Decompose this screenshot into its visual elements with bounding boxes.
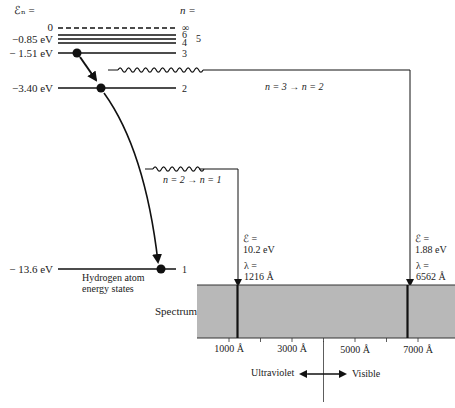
photon-wave-3-2 xyxy=(118,68,203,72)
photon-wave-2-1 xyxy=(153,167,204,171)
hydrogen-diagram: ℰₙ = n = 0 −0.85 eV − 1.51 eV −3.40 eV −… xyxy=(0,0,455,408)
energy-136: − 13.6 eV xyxy=(9,263,53,275)
energy-value-3-2: 1.88 eV xyxy=(415,244,447,255)
energy-085: −0.85 eV xyxy=(12,33,53,45)
tick-label-5000: 5000 Å xyxy=(340,344,371,355)
ultraviolet-label: Ultraviolet xyxy=(251,367,295,378)
lambda-label-2-1: λ = xyxy=(244,260,257,271)
visible-label: Visible xyxy=(352,368,381,379)
electron-dot-n2 xyxy=(97,84,106,93)
wavelength-value-3-2: 6562 Å xyxy=(416,271,447,282)
tick-label-7000: 7000 Å xyxy=(403,344,434,355)
n-label-5: 5 xyxy=(196,33,201,44)
transition-label-2-1: n = 2 → n = 1 xyxy=(163,174,222,185)
energy-0: 0 xyxy=(48,21,54,33)
n-label-1: 1 xyxy=(182,264,187,275)
photon-path-2-1 xyxy=(199,169,238,285)
energy-151: − 1.51 eV xyxy=(9,47,53,59)
energy-label-3-2: ℰ = xyxy=(415,233,430,244)
n-label-2: 2 xyxy=(182,83,187,94)
transition-arrow-2-1 xyxy=(104,93,158,262)
transition-arrow-3-2 xyxy=(80,57,96,80)
electron-dot-n3 xyxy=(73,49,82,58)
photon-path-3-2 xyxy=(203,70,410,285)
caption-line-2: energy states xyxy=(82,283,134,294)
caption-line-1: Hydrogen atom xyxy=(82,272,145,283)
energy-340: −3.40 eV xyxy=(12,82,53,94)
spectrum-label: Spectrum xyxy=(155,305,198,317)
tick-label-1000: 1000 Å xyxy=(214,343,245,354)
tick-label-3000: 3000 Å xyxy=(277,343,308,354)
n-label-4: 4 xyxy=(182,37,187,48)
wavelength-value-2-1: 1216 Å xyxy=(244,271,275,282)
spectrum-band xyxy=(197,285,455,338)
n-label-3: 3 xyxy=(182,48,187,59)
transition-label-3-2: n = 3 → n = 2 xyxy=(265,81,324,92)
energy-value-2-1: 10.2 eV xyxy=(243,244,275,255)
electron-dot-n1 xyxy=(157,265,166,274)
energy-label-2-1: ℰ = xyxy=(243,233,258,244)
lambda-label-3-2: λ = xyxy=(416,260,429,271)
energy-header: ℰₙ = xyxy=(14,4,35,16)
n-header: n = xyxy=(180,4,196,16)
